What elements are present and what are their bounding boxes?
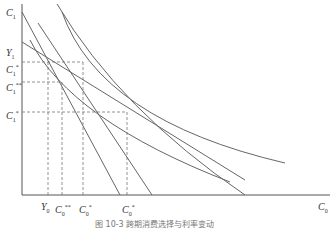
budget-line-steep <box>22 12 120 195</box>
x-tick-C0-star: C0* <box>79 202 92 219</box>
x-axis-label: C0 <box>318 202 328 216</box>
indifference-curve-middle <box>57 4 245 195</box>
indifference-curves <box>30 4 285 195</box>
intertemporal-consumption-diagram: C1 C0 Y1 C1* C1** C1* Y0 C0** C0* C0* 图 … <box>0 0 335 228</box>
budget-line-shifted <box>38 23 152 195</box>
y-axis-label: C1 <box>6 8 16 22</box>
diagram-svg <box>0 0 335 228</box>
x-tick-C0-dagger: C0* <box>122 202 135 219</box>
y-tick-C1-dagger: C1* <box>6 108 19 125</box>
y-tick-C1-dstar: C1** <box>6 80 22 97</box>
x-tick-C0-dstar: C0** <box>55 202 71 219</box>
y-tick-C1-star: C1* <box>6 62 19 79</box>
figure-caption: 图 10-3 跨期消费选择与利率变动 <box>95 218 214 228</box>
indifference-curve-lower <box>30 40 230 182</box>
y-tick-Y1: Y1 <box>6 48 15 62</box>
budget-lines <box>22 12 245 195</box>
x-tick-Y0: Y0 <box>41 202 50 216</box>
budget-line-flat <box>22 42 245 180</box>
guide-lines <box>22 62 127 195</box>
